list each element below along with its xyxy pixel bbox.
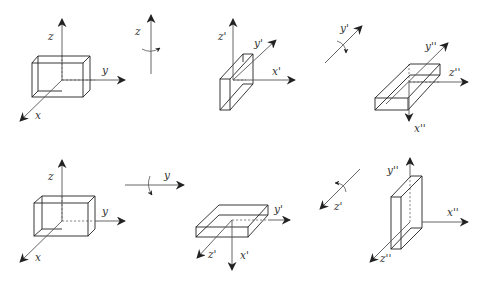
box: [375, 64, 440, 110]
frame-6-double-primed: y'' x'' z'': [370, 158, 468, 264]
x-axis-arrow: [20, 221, 62, 262]
z-axis-label: z: [47, 170, 54, 182]
y-double-prime-label: y'': [386, 164, 399, 176]
rotation-axis-label: z': [333, 200, 342, 212]
rotation-axis-label: y: [163, 169, 171, 181]
x-axis-label: x: [35, 109, 41, 121]
x-double-prime-label: x'': [447, 206, 459, 218]
box: [32, 56, 90, 97]
rotation-about-y: y: [125, 169, 184, 195]
z-double-prime-label: z'': [379, 252, 391, 264]
z-prime-label: z': [217, 30, 226, 42]
z-axis-label: z: [47, 30, 54, 42]
z-double-prime-label: z'': [448, 66, 460, 78]
x-prime-label: x': [240, 249, 249, 261]
z-prime-label: z': [207, 248, 216, 260]
box: [34, 196, 95, 236]
x-double-prime-label: x'': [414, 122, 426, 134]
frame-3-double-primed: y'' z'' x'': [375, 40, 468, 134]
x-prime-label: x': [272, 65, 281, 77]
rotation-axis-label: z: [134, 25, 141, 37]
rotation-diagram: z y x z z' y' x' y': [0, 0, 484, 287]
y-double-prime-axis-arrow: [386, 43, 448, 104]
y-double-prime-label: y'': [424, 40, 437, 52]
x-axis-label: x: [35, 251, 41, 263]
box: [391, 176, 422, 249]
rotation-about-z-prime: z': [320, 169, 360, 212]
frame-5-primed: y' z' x': [196, 203, 290, 270]
rotation-curl-icon: [148, 176, 152, 195]
rotation-about-y-prime: y': [325, 22, 362, 63]
frame-1-original: z y x: [20, 19, 125, 121]
box: [220, 54, 253, 110]
frame-2-primed: z' y' x': [217, 19, 295, 110]
rotation-axis-label: y': [339, 22, 349, 34]
frame-4-original: z y x: [20, 160, 125, 263]
y-prime-label: y': [253, 37, 263, 49]
y-axis-label: y: [101, 64, 109, 76]
x-axis-arrow: [20, 80, 62, 121]
y-prime-label: y': [273, 203, 283, 215]
rotation-about-z: z: [134, 15, 160, 74]
y-axis-label: y: [101, 205, 109, 217]
